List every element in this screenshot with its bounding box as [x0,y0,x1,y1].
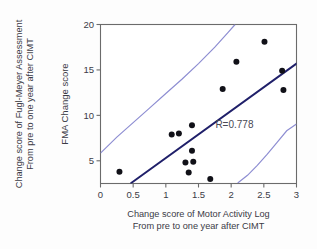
data-point [261,39,267,45]
data-point [116,169,122,175]
x-axis-title-line1: Change score of Motor Activity Log [127,209,269,219]
y-tick-label: 5 [89,155,94,166]
x-tick-label: 0.5 [127,189,140,200]
y-axis-title-line2: From pre to one year after CIMT [25,38,35,170]
data-point [169,131,175,137]
data-point [186,170,192,176]
y-axis-ticks: 5101520 [83,19,100,166]
data-point [176,131,182,137]
annotations: R=0.778 [215,119,254,130]
y-axis-title-line1: Change score of Fugl-Meyer Assessment [14,19,24,188]
data-point [190,159,196,165]
plot-frame [101,25,297,184]
x-tick-label: 1.5 [192,189,205,200]
x-axis-ticks: 00.511.522.53 [98,184,299,201]
x-tick-label: 1 [163,189,168,200]
y-tick-label: 10 [83,110,94,121]
data-point [233,59,239,65]
correlation-annotation: R=0.778 [215,119,254,130]
data-point [189,148,195,154]
y-tick-label: 15 [83,64,94,75]
data-point [280,87,286,93]
scatter-plot-svg: 00.511.522.53 5101520 R=0.778 Change sco… [0,0,317,249]
x-axis-title-line2: From pre to one year after CIMT [133,221,265,231]
data-point [279,68,285,74]
data-point [182,160,188,166]
data-point [220,86,226,92]
chart-figure: 00.511.522.53 5101520 R=0.778 Change sco… [0,0,317,249]
y-tick-label: 20 [83,19,94,30]
data-point [189,122,195,128]
y-axis-inner-label: FMA Change score [59,63,70,144]
x-tick-label: 0 [98,189,103,200]
data-point [207,176,213,182]
x-tick-label: 3 [294,189,299,200]
x-tick-label: 2 [229,189,234,200]
x-tick-label: 2.5 [257,189,270,200]
